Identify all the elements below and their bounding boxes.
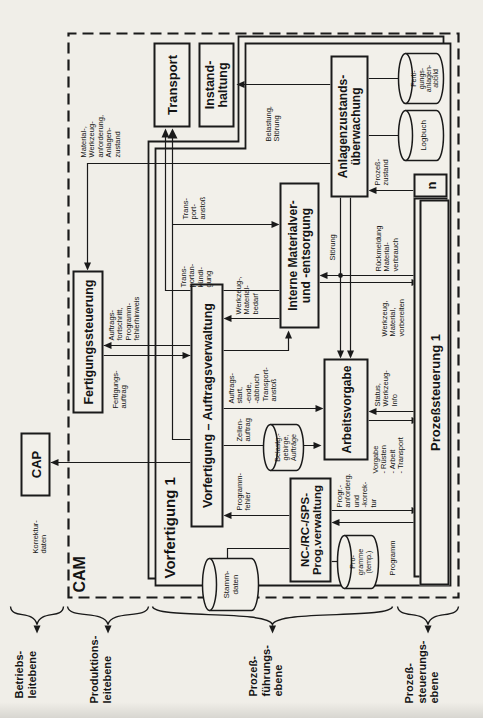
edge-fertigungsauftrag: Fertigungs- auftrag xyxy=(111,370,128,408)
edge-stoerung: Störung xyxy=(328,234,336,260)
logbuch-label: Logbuch xyxy=(404,110,442,160)
node-prozesssteuerung-n: n xyxy=(413,173,447,197)
brace-betriebsleitebene xyxy=(10,606,63,624)
node-cap: CAP xyxy=(20,432,50,496)
cam-label: CAM xyxy=(70,556,88,592)
edge-progr-anforderung: Progr.- anforderg. und -korrek- tur xyxy=(335,473,377,507)
edge-transportankuendigung: Trans- portan- kündi- gung xyxy=(179,263,213,287)
edge-werkzeug-vorbereiten: Werkzeug, Material, vorbereiten xyxy=(380,298,405,336)
level-betriebsleitebene: Betriebs- leitebene xyxy=(12,650,37,698)
scanned-diagram-page: CAM Vorfertigung 1 CAP Fertigungssteueru… xyxy=(0,0,483,718)
brace-tip-arrows xyxy=(33,625,431,633)
edge-vorgabe: Vorgabe - Rüsten - Arbeit - Transport xyxy=(371,437,405,473)
edge-prozesszustand: Prozeß- zustand xyxy=(373,158,390,185)
edge-auftragsfortschritt: Auftrags- fortschritt, Programm- fehlerh… xyxy=(107,296,141,340)
edge-programmfehler: Programm- fehler xyxy=(235,472,252,510)
brace-produktionsleitebene xyxy=(67,606,148,624)
node-prozesssteuerung-1: Prozeßsteuerung 1 xyxy=(419,199,449,585)
edge-rueckmeldung-materialverbrauch: Rückmeldung Material- verbrauch xyxy=(374,225,399,271)
node-interne-materialversorgung: Interne Materialver- und -entsorgung xyxy=(279,182,319,328)
level-prozessfuehrungsebene: Prozeß- führungs- ebene xyxy=(246,645,284,696)
brace-prozesssteuerungsebene xyxy=(397,606,458,624)
vorfertigung-title: Vorfertigung 1 xyxy=(160,477,177,578)
edge-belastung-stoerung: Belastung, Störung xyxy=(264,106,281,141)
node-transport: Transport xyxy=(153,42,190,127)
edge-auftrag-start-ende: Auftrags- start, -ende, -abbruch xyxy=(227,373,261,403)
node-prog-verwaltung: NC-/RC-/SPS- Prog.verwaltung xyxy=(289,477,331,582)
edge-transportanstoss-oben: Trans- port- anstoß xyxy=(181,196,206,219)
stammdaten-label: Stamm- daten xyxy=(208,558,254,610)
edge-material-anforderung: Material-, Werkzeug- anforderung, Anlage… xyxy=(79,114,121,157)
level-prozesssteuerungsebene: Prozeß- steuerungs- ebene xyxy=(402,640,440,703)
cam-architecture-diagram: CAM Vorfertigung 1 CAP Fertigungssteueru… xyxy=(0,0,483,718)
edge-korrekturdaten: Korrektur- daten xyxy=(31,520,48,553)
anlagenabbild-label: Ferti- gungs- anlagen- abbild xyxy=(404,53,444,103)
brace-prozessfuehrungsebene xyxy=(152,606,392,624)
node-auftragsverwaltung: Vorfertigung – Auftragsverwaltung xyxy=(190,283,223,527)
edge-transportanstoss-mitte: Transport- anstoß xyxy=(261,367,278,401)
level-produktionsleitebene: Produktions- leitebene xyxy=(87,635,112,703)
edge-zellenauftrag: Zellen- auftrag xyxy=(235,418,252,441)
programme-temp-label: Pro- gramme (temp.) xyxy=(344,535,376,588)
edge-status-werkzeug-info: Status, Werkzeug- Info xyxy=(373,370,398,406)
node-instandhaltung: Instand- haltung xyxy=(198,42,234,127)
node-arbeitsvorgabe: Arbeitsvorgabe xyxy=(323,358,368,460)
edge-werkzeug-materialbedarf: Werkzeug-, Material- bedarf xyxy=(234,276,259,314)
belastungsgebirge-label: Belastg.- gebirge, Aufträge xyxy=(269,424,301,470)
edge-programm: Programm xyxy=(388,540,396,575)
node-anlagenzustandsueberwachung: Anlagenzustands- überwachung xyxy=(330,55,368,197)
node-fertigungssteuerung: Fertigungssteuerung xyxy=(72,270,103,413)
